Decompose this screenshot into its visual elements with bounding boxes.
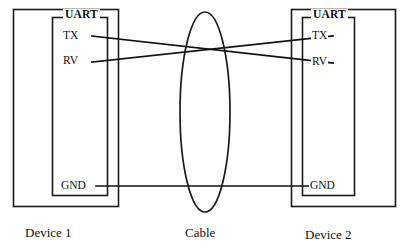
uart-cable-diagram: UART TX RV GND UART TX RV GND Device 1 C…	[0, 0, 409, 252]
device-2-uart-box	[303, 18, 355, 196]
device-1-pin-rv-label: RV	[62, 55, 79, 67]
cable-ellipse	[180, 12, 230, 212]
device-1-uart-label: UART	[63, 9, 100, 21]
device-2-uart-label: UART	[311, 9, 348, 21]
device-2-caption: Device 2	[305, 228, 352, 241]
device-1-pin-gnd-label: GND	[60, 180, 87, 192]
cable-caption: Cable	[185, 226, 215, 239]
device-2-pin-tx-label: TX	[311, 30, 328, 42]
device-1-uart-box	[53, 18, 108, 196]
device-2-pin-gnd-label: GND	[309, 180, 336, 192]
device-2-pin-rv-label: RV	[311, 56, 328, 68]
device-1-pin-tx-label: TX	[62, 30, 79, 42]
device-1-caption: Device 1	[25, 226, 72, 239]
